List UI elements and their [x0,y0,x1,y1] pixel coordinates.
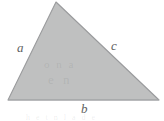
side-label-b: b [81,102,88,115]
triangle-shape [8,2,159,100]
side-label-c: c [111,39,117,52]
triangle-figure: a c b o n a e n h e t n l a d e [0,0,164,121]
side-label-a: a [17,41,24,54]
